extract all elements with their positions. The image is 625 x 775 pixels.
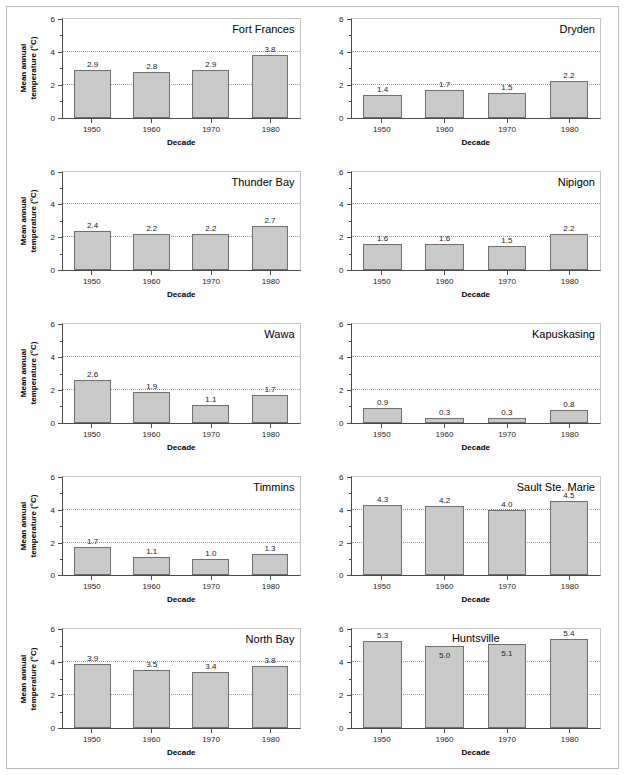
- x-tick-slot-1960: [413, 576, 476, 580]
- x-tick-slot-1970: [181, 729, 241, 733]
- x-tick-label: 1950: [62, 582, 122, 591]
- bar[interactable]: 1.6: [363, 244, 402, 270]
- bar[interactable]: 3.5: [133, 670, 170, 728]
- bar-slot-1950: 2.4: [63, 172, 122, 271]
- x-tick-slot-1970: [181, 424, 241, 428]
- bar[interactable]: 1.5: [488, 93, 527, 118]
- bar[interactable]: 2.8: [133, 72, 170, 118]
- y-axis-title: Mean annualtemperature (°C): [16, 171, 42, 272]
- x-axis: 1950196019701980Decade: [351, 119, 602, 153]
- bar[interactable]: 1.4: [363, 95, 402, 118]
- bar[interactable]: 1.7: [252, 395, 289, 423]
- y-tick-label: 6: [51, 625, 55, 634]
- x-tick-label: 1980: [241, 582, 301, 591]
- x-tick-slot-1980: [241, 119, 301, 123]
- plot-box: 02462.92.82.93.8Fort Frances: [62, 18, 301, 119]
- bar[interactable]: 3.4: [192, 672, 229, 728]
- x-axis-title: Decade: [351, 290, 602, 299]
- bar[interactable]: 2.2: [550, 234, 589, 270]
- plot-area-timmins: 02461.71.11.01.3Timmins1950196019701980D…: [62, 476, 301, 577]
- y-tick-label: 0: [51, 266, 55, 275]
- bar[interactable]: 2.9: [192, 70, 229, 118]
- bar[interactable]: 2.6: [74, 380, 111, 423]
- bar[interactable]: 5.4: [550, 639, 589, 728]
- bar-slot-1970: 0.3: [476, 324, 538, 423]
- bar[interactable]: 1.0: [192, 559, 229, 575]
- bar-value-label: 1.4: [377, 85, 388, 94]
- y-tick-label: 4: [339, 353, 343, 362]
- y-tick-label: 2: [51, 691, 55, 700]
- x-tick-slot-1960: [122, 271, 182, 275]
- bar[interactable]: 1.9: [133, 392, 170, 423]
- bar[interactable]: 0.8: [550, 410, 589, 423]
- x-tick-mark: [211, 424, 212, 428]
- panel-north-bay: Mean annualtemperature (°C)02463.93.53.4…: [6, 616, 313, 769]
- bar[interactable]: 3.8: [252, 55, 289, 117]
- x-tick-mark: [569, 271, 570, 275]
- x-tick-slot-1980: [538, 424, 601, 428]
- x-tick-mark: [444, 271, 445, 275]
- bar[interactable]: 5.1: [488, 644, 527, 728]
- bar[interactable]: 5.0: [425, 646, 464, 728]
- bar-slot-1960: 1.9: [122, 324, 181, 423]
- bar[interactable]: 4.2: [425, 506, 464, 575]
- x-tick-slot-1970: [476, 576, 539, 580]
- x-tick-slot-1950: [62, 576, 122, 580]
- x-tick-label: 1950: [62, 125, 122, 134]
- bar-value-label: 2.2: [205, 224, 216, 233]
- x-tick-mark: [91, 119, 92, 123]
- bar[interactable]: 0.9: [363, 408, 402, 423]
- bar[interactable]: 3.8: [252, 666, 289, 728]
- bar-value-label: 1.7: [87, 537, 98, 546]
- bar[interactable]: 2.9: [74, 70, 111, 118]
- bar[interactable]: 2.2: [133, 234, 170, 270]
- plot-area-sault-ste-marie: 02464.34.24.04.5Sault Ste. Marie19501960…: [351, 476, 602, 577]
- bar[interactable]: 1.5: [488, 246, 527, 271]
- panel-grid: Mean annualtemperature (°C)02462.92.82.9…: [6, 6, 619, 769]
- x-tick-slot-1980: [241, 424, 301, 428]
- bar[interactable]: 4.3: [363, 505, 402, 576]
- x-tick-slot-1960: [122, 576, 182, 580]
- bar[interactable]: 1.1: [192, 405, 229, 423]
- x-tick-mark: [569, 424, 570, 428]
- panel-nipigon: 02461.61.61.52.2Nipigon1950196019701980D…: [313, 159, 620, 312]
- bar[interactable]: 1.6: [425, 244, 464, 270]
- bar[interactable]: 1.7: [425, 90, 464, 118]
- bar[interactable]: 0.3: [488, 418, 527, 423]
- x-axis: 1950196019701980Decade: [351, 729, 602, 763]
- bar[interactable]: 1.1: [133, 557, 170, 575]
- y-tick-label: 0: [339, 724, 343, 733]
- plot-area-huntsville: 02465.35.05.15.4Huntsville19501960197019…: [351, 628, 602, 729]
- bar[interactable]: 2.2: [550, 81, 589, 117]
- bar-slot-1960: 4.2: [414, 477, 476, 576]
- bar[interactable]: 0.3: [425, 418, 464, 423]
- y-tick-label: 0: [339, 571, 343, 580]
- bar[interactable]: 5.3: [363, 641, 402, 728]
- bar-slot-1950: 1.7: [63, 477, 122, 576]
- bar[interactable]: 3.9: [74, 664, 111, 728]
- bar[interactable]: 4.5: [550, 501, 589, 575]
- x-tick-marks: [351, 424, 602, 428]
- x-tick-slot-1960: [122, 119, 182, 123]
- x-tick-slot-1950: [351, 576, 414, 580]
- bar[interactable]: 2.7: [252, 226, 289, 270]
- x-tick-slot-1980: [538, 119, 601, 123]
- x-tick-mark: [381, 424, 382, 428]
- x-tick-label: 1950: [62, 277, 122, 286]
- bar[interactable]: 2.4: [74, 231, 111, 270]
- x-tick-label: 1980: [241, 430, 301, 439]
- y-tick-label: 6: [51, 15, 55, 24]
- bar-value-label: 2.9: [205, 60, 216, 69]
- bar[interactable]: 4.0: [488, 510, 527, 576]
- x-tick-slot-1960: [413, 424, 476, 428]
- bar[interactable]: 2.2: [192, 234, 229, 270]
- x-tick-marks: [351, 729, 602, 733]
- x-axis: 1950196019701980Decade: [351, 576, 602, 610]
- bar-slot-1980: 5.4: [538, 629, 600, 728]
- y-tick-label: 4: [339, 658, 343, 667]
- bar[interactable]: 1.3: [252, 554, 289, 575]
- panel-fort-frances: Mean annualtemperature (°C)02462.92.82.9…: [6, 6, 313, 159]
- y-tick-label: 0: [51, 724, 55, 733]
- x-tick-mark: [444, 119, 445, 123]
- bar[interactable]: 1.7: [74, 547, 111, 575]
